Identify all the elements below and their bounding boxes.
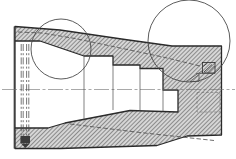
drawing-canvas <box>0 0 236 159</box>
hole-bottom-fill <box>21 136 31 143</box>
technical-drawing <box>0 0 236 159</box>
